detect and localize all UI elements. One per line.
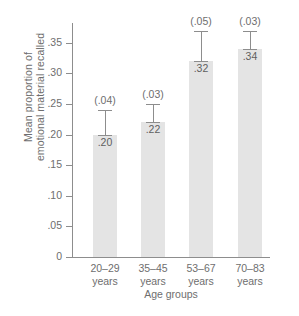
y-axis-tick-label: .30 [22, 66, 62, 78]
standard-error-label: (.03) [131, 88, 175, 100]
error-bar-stem [250, 31, 251, 49]
bar-value-label: .20 [85, 136, 125, 148]
y-axis-tick [66, 104, 73, 105]
y-axis-tick-label: .05 [22, 219, 62, 231]
bar-value-label: .32 [181, 62, 221, 74]
y-axis-tick-label: .35 [22, 36, 62, 48]
y-axis-tick [66, 226, 73, 227]
bar [141, 122, 165, 257]
error-bar-cap-upper [194, 31, 208, 32]
y-axis-tick [66, 43, 73, 44]
bar [189, 61, 213, 257]
bar [238, 49, 262, 257]
y-axis-tick [66, 165, 73, 166]
bar-value-label: .34 [230, 50, 270, 62]
figure-caption-cropped [0, 306, 299, 316]
y-axis-tick [66, 135, 73, 136]
y-axis-tick-label: .15 [22, 158, 62, 170]
x-axis-category-label: 70–83years [219, 262, 281, 287]
error-bar-stem [153, 104, 154, 122]
error-bar-cap-upper [98, 110, 112, 111]
y-axis-line [72, 23, 73, 257]
x-axis-category-label-line: 70–83 [219, 262, 281, 275]
bar-chart-figure: Mean proportion of emotional material re… [0, 0, 299, 316]
x-axis-title: Age groups [72, 288, 270, 300]
error-bar-stem [105, 110, 106, 134]
bar [93, 135, 117, 257]
y-axis-tick-label: .10 [22, 189, 62, 201]
bar-value-label: .22 [133, 123, 173, 135]
x-axis-category-label-line: years [219, 275, 281, 288]
y-axis-tick [66, 196, 73, 197]
y-axis-tick-label: 0 [22, 250, 62, 262]
y-axis-tick-label: .20 [22, 128, 62, 140]
standard-error-label: (.04) [83, 94, 127, 106]
x-axis-line [72, 257, 270, 258]
error-bar-cap-upper [243, 31, 257, 32]
y-axis-tick-label: .25 [22, 97, 62, 109]
error-bar-cap-upper [146, 104, 160, 105]
standard-error-label: (.05) [179, 15, 223, 27]
y-axis-tick [66, 73, 73, 74]
error-bar-stem [201, 31, 202, 62]
standard-error-label: (.03) [228, 15, 272, 27]
y-axis-tick [66, 257, 73, 258]
